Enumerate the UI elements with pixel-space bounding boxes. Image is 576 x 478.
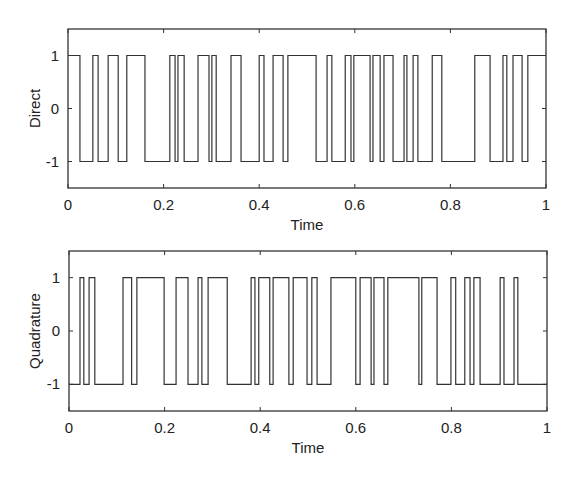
x-tick-label: 0.2 <box>154 419 175 436</box>
y-tick-label: -1 <box>46 153 59 170</box>
x-tick-label: 0.4 <box>249 196 270 213</box>
x-tick-label: 0.4 <box>250 419 271 436</box>
x-tick-label: 0.8 <box>441 419 462 436</box>
signal-line-quadrature <box>69 278 547 385</box>
signal-line-direct <box>68 56 546 162</box>
figure: 00.20.40.60.81-101TimeDirect00.20.40.60.… <box>0 0 576 478</box>
x-tick-label: 0.2 <box>153 196 174 213</box>
x-tick-label: 0 <box>64 196 72 213</box>
plot-quadrature: 00.20.40.60.81-101TimeQuadrature <box>26 251 551 456</box>
x-axis-label: Time <box>291 216 324 233</box>
y-tick-label: -1 <box>47 375 60 392</box>
x-tick-label: 0 <box>65 419 73 436</box>
y-axis-label: Direct <box>26 88 43 128</box>
y-tick-label: 1 <box>51 47 59 64</box>
axes-box <box>69 251 547 411</box>
x-axis-label: Time <box>292 439 325 456</box>
x-tick-label: 0.8 <box>440 196 461 213</box>
y-tick-label: 0 <box>52 322 60 339</box>
x-tick-label: 0.6 <box>344 196 365 213</box>
plot-direct: 00.20.40.60.81-101TimeDirect <box>26 29 550 233</box>
x-tick-label: 0.6 <box>345 419 366 436</box>
x-tick-label: 1 <box>542 196 550 213</box>
x-tick-label: 1 <box>543 419 551 436</box>
y-tick-label: 0 <box>51 100 59 117</box>
y-axis-label: Quadrature <box>26 293 43 369</box>
y-tick-label: 1 <box>52 269 60 286</box>
